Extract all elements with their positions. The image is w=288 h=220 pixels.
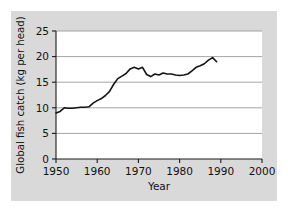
- x-tick-label-1950: 1950: [43, 165, 70, 177]
- x-tick-label-1980: 1980: [166, 165, 193, 177]
- x-tick-label-1970: 1970: [125, 165, 152, 177]
- x-tick-label-2000: 2000: [249, 165, 276, 177]
- chart-figure-panel: 0510152025195019601970198019902000YearGl…: [11, 11, 277, 201]
- x-tick-label-1960: 1960: [84, 165, 111, 177]
- line-chart: 0510152025195019601970198019902000YearGl…: [11, 11, 277, 201]
- plot-background: [56, 31, 262, 159]
- y-axis-title: Global fish catch (kg per head): [15, 16, 26, 173]
- x-axis-title: Year: [147, 180, 171, 192]
- y-tick-label-0: 0: [42, 153, 49, 165]
- y-tick-label-25: 25: [36, 25, 49, 37]
- y-tick-label-20: 20: [36, 50, 49, 62]
- x-tick-label-1990: 1990: [207, 165, 234, 177]
- y-tick-label-5: 5: [42, 127, 49, 139]
- y-tick-label-10: 10: [36, 102, 49, 114]
- y-tick-label-15: 15: [36, 76, 49, 88]
- chart-plot-area: 0510152025195019601970198019902000YearGl…: [11, 11, 277, 201]
